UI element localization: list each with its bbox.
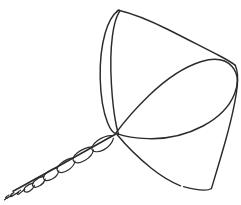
handle-cord-group xyxy=(5,134,116,200)
net-cone-group xyxy=(100,10,238,190)
right-cone-edge-path xyxy=(211,65,237,188)
left-rim-edge-inner-path xyxy=(111,12,120,135)
left-rim-edge-outer-path xyxy=(100,10,118,133)
cord-axis-path xyxy=(13,134,115,191)
lower-cone-edge-path xyxy=(117,135,180,186)
upper-cone-edge-path xyxy=(119,10,236,65)
line-drawing-svg: Cone-shaped net sketch xyxy=(0,0,241,205)
lower-cone-edge-path-continuation xyxy=(184,187,212,191)
drawing-canvas: Cone-shaped net sketch xyxy=(0,0,241,205)
cord-twist-loop-3-path xyxy=(57,158,75,173)
rim-ellipse-path xyxy=(116,59,237,138)
